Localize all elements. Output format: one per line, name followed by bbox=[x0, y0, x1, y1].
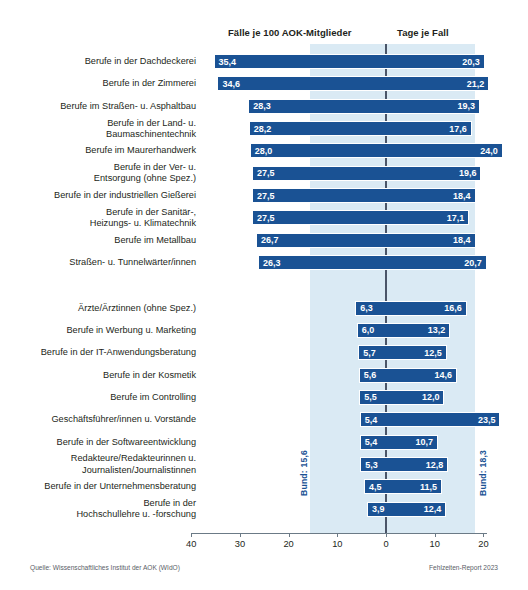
category-label: Berufe in Werbung u. Marketing bbox=[0, 325, 196, 336]
bar-tage: 17,6 bbox=[386, 121, 472, 136]
axis-tick bbox=[191, 533, 192, 537]
bar-faelle: 5,7 bbox=[358, 345, 386, 360]
bar-faelle: 3,9 bbox=[367, 502, 386, 517]
chart-row: Berufe in der industriellen Gießerei27,5… bbox=[0, 188, 528, 204]
bar-value-tage: 12,5 bbox=[424, 348, 442, 358]
bar-value-faelle: 5,4 bbox=[365, 437, 378, 447]
chart-row: Berufe in der Sanitär-, Heizungs- u. Kli… bbox=[0, 210, 528, 226]
chart-row: Berufe in der Zimmerei34,621,2 bbox=[0, 76, 528, 92]
chart-row: Berufe in der Softwareentwicklung5,410,7 bbox=[0, 435, 528, 451]
axis-tick bbox=[435, 533, 436, 537]
chart-row: Straßen- u. Tunnelwärter/innen26,320,7 bbox=[0, 255, 528, 271]
bar-value-faelle: 26,7 bbox=[261, 235, 279, 245]
bar-faelle: 4,5 bbox=[364, 479, 386, 494]
bar-tage: 21,2 bbox=[386, 76, 489, 91]
bar-faelle: 27,5 bbox=[252, 188, 386, 203]
category-label: Berufe im Controlling bbox=[0, 392, 196, 403]
bar-tage: 23,5 bbox=[386, 412, 500, 427]
bar-value-faelle: 27,5 bbox=[257, 168, 275, 178]
bar-faelle: 6,3 bbox=[355, 301, 386, 316]
bar-value-faelle: 3,9 bbox=[372, 504, 385, 514]
x-axis: 4030201001020 bbox=[0, 533, 528, 559]
plot-area: Bund: 15,6 Bund: 18,3 Berufe in der Dach… bbox=[0, 44, 528, 534]
bar-faelle: 5,4 bbox=[360, 412, 386, 427]
category-label: Berufe in der Softwareentwicklung bbox=[0, 437, 196, 448]
bar-faelle: 6,0 bbox=[357, 323, 386, 338]
chart-row: Berufe in der IT-Anwendungsberatung5,712… bbox=[0, 345, 528, 361]
chart-row: Berufe in der Hochschullehre u. -forschu… bbox=[0, 502, 528, 518]
bar-faelle: 26,7 bbox=[256, 233, 386, 248]
right-column-header: Tage je Fall bbox=[397, 27, 449, 38]
category-label: Ärzte/Ärztinnen (ohne Spez.) bbox=[0, 303, 196, 314]
bar-value-tage: 21,2 bbox=[467, 79, 485, 89]
bar-tage: 11,5 bbox=[386, 479, 442, 494]
bar-value-faelle: 4,5 bbox=[369, 482, 382, 492]
chart-row: Berufe in der Dachdeckerei35,420,3 bbox=[0, 54, 528, 70]
bar-value-faelle: 27,5 bbox=[257, 213, 275, 223]
axis-tick bbox=[337, 533, 338, 537]
axis-line bbox=[192, 533, 487, 534]
bar-value-tage: 23,5 bbox=[478, 415, 496, 425]
bar-faelle: 5,5 bbox=[359, 390, 386, 405]
category-label: Berufe in der Hochschullehre u. -forschu… bbox=[0, 498, 196, 520]
bar-value-tage: 17,1 bbox=[447, 213, 465, 223]
bar-value-faelle: 5,7 bbox=[363, 348, 376, 358]
bar-value-faelle: 5,3 bbox=[365, 460, 378, 470]
category-label: Berufe im Straßen- u. Asphaltbau bbox=[0, 101, 196, 112]
bar-tage: 18,4 bbox=[386, 233, 476, 248]
bar-value-tage: 18,4 bbox=[453, 191, 471, 201]
bar-value-tage: 12,4 bbox=[424, 504, 442, 514]
chart-row: Berufe in der Ver- u. Entsorgung (ohne S… bbox=[0, 166, 528, 182]
bar-value-tage: 20,3 bbox=[462, 57, 480, 67]
bar-faelle: 26,3 bbox=[258, 255, 386, 270]
category-label: Berufe im Maurerhandwerk bbox=[0, 145, 196, 156]
axis-tick bbox=[240, 533, 241, 537]
bar-value-faelle: 28,0 bbox=[255, 146, 273, 156]
category-label: Redakteure/Redakteurinnen u. Journaliste… bbox=[0, 453, 196, 475]
chart-row: Redakteure/Redakteurinnen u. Journaliste… bbox=[0, 457, 528, 473]
bar-value-tage: 13,2 bbox=[428, 325, 446, 335]
bar-tage: 19,3 bbox=[386, 99, 480, 114]
bar-tage: 19,6 bbox=[386, 166, 481, 181]
axis-tick-label: 10 bbox=[430, 539, 440, 549]
bar-faelle: 5,6 bbox=[359, 368, 386, 383]
axis-tick-label: 40 bbox=[186, 539, 196, 549]
axis-tick bbox=[289, 533, 290, 537]
category-label: Berufe in der Land- u. Baumaschinentechn… bbox=[0, 118, 196, 140]
chart-row: Berufe im Straßen- u. Asphaltbau28,319,3 bbox=[0, 99, 528, 115]
chart-container: Fälle je 100 AOK-Mitglieder Tage je Fall… bbox=[0, 0, 528, 590]
bar-value-faelle: 35,4 bbox=[219, 57, 237, 67]
bar-value-tage: 14,6 bbox=[435, 370, 453, 380]
bar-value-faelle: 26,3 bbox=[263, 258, 281, 268]
source-note: Quelle: Wissenschaftliches Institut der … bbox=[30, 564, 180, 571]
bar-faelle: 5,3 bbox=[360, 457, 386, 472]
bar-value-tage: 10,7 bbox=[416, 437, 434, 447]
bar-faelle: 34,6 bbox=[217, 76, 386, 91]
left-column-header: Fälle je 100 AOK-Mitglieder bbox=[228, 27, 351, 38]
bar-value-faelle: 28,3 bbox=[253, 101, 271, 111]
bar-faelle: 27,5 bbox=[252, 166, 386, 181]
bar-faelle: 5,4 bbox=[360, 435, 386, 450]
bar-value-tage: 20,7 bbox=[464, 258, 482, 268]
bar-value-faelle: 5,6 bbox=[364, 370, 377, 380]
bar-faelle: 27,5 bbox=[252, 210, 386, 225]
category-label: Berufe in der Dachdeckerei bbox=[0, 56, 196, 67]
bar-value-tage: 12,8 bbox=[426, 460, 444, 470]
chart-row: Ärzte/Ärztinnen (ohne Spez.)6,316,6 bbox=[0, 301, 528, 317]
bar-tage: 12,8 bbox=[386, 457, 448, 472]
bar-value-tage: 24,0 bbox=[480, 146, 498, 156]
report-note: Fehlzeiten-Report 2023 bbox=[429, 564, 498, 571]
axis-tick-label: 20 bbox=[283, 539, 293, 549]
axis-tick-label: 10 bbox=[332, 539, 342, 549]
chart-row: Geschäftsführer/innen u. Vorstände5,423,… bbox=[0, 412, 528, 428]
chart-row: Berufe im Controlling5,512,0 bbox=[0, 390, 528, 406]
category-label: Berufe in der Unternehmensberatung bbox=[0, 481, 196, 492]
bar-value-faelle: 28,2 bbox=[254, 124, 272, 134]
category-label: Geschäftsführer/innen u. Vorstände bbox=[0, 414, 196, 425]
category-label: Berufe in der IT-Anwendungsberatung bbox=[0, 347, 196, 358]
bar-value-faelle: 27,5 bbox=[257, 191, 275, 201]
category-label: Berufe in der Zimmerei bbox=[0, 78, 196, 89]
axis-tick-label: 0 bbox=[383, 539, 388, 549]
bar-tage: 12,4 bbox=[386, 502, 446, 517]
axis-tick bbox=[386, 533, 387, 537]
